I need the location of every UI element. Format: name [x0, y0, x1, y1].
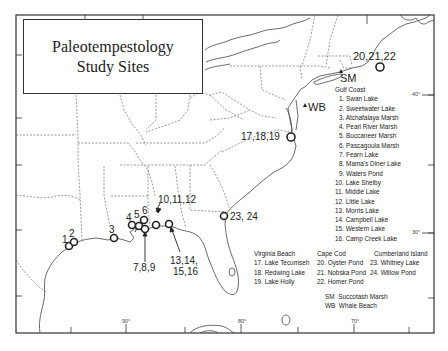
lon-90-label: 90°	[122, 318, 130, 324]
title-box: Paleotempestology Study Sites	[23, 19, 203, 94]
site-marker-10-11-12	[153, 222, 160, 229]
site-label-5: 5	[134, 209, 140, 221]
legend-cumberland-island: Cumberland Island 23. Whitney Lake 24. W…	[370, 249, 428, 277]
legend-item: 8. Mama's Diner Lake	[339, 159, 401, 168]
legend-item: 17. Lake Tecumseh	[254, 258, 309, 267]
wb-label: WB	[308, 101, 326, 113]
legend-item: 19. Lake Holly	[254, 277, 309, 286]
legend-abbreviations: SM Succotash Marsh WB Whale Beach	[325, 292, 388, 311]
site-label-20-21-22: 20,21,22	[353, 50, 396, 62]
legend-gulf-coast: Gulf Coast 1. Swan Lake 2. Sweetwater La…	[335, 85, 401, 243]
legend-abbrev-wb: WB Whale Beach	[325, 301, 388, 310]
title-line-2: Study Sites	[77, 57, 149, 77]
legend-item: 11. Middle Lake	[335, 187, 401, 196]
site-label-2: 2	[69, 228, 75, 240]
legend-item: 12. Little Lake	[335, 197, 401, 206]
wb-triangle-icon	[303, 103, 307, 107]
site-label-7-8-9: 7,8,9	[133, 262, 155, 274]
site-label-6: 6	[142, 205, 148, 217]
legend-item: 5. Buccaneer Marsh	[339, 131, 401, 140]
site-label-10-11-12: 10,11,12	[158, 194, 196, 206]
lat-ticks-labels	[422, 95, 434, 233]
legend-item: 23. Whitney Lake	[370, 258, 428, 267]
legend-item: 6. Pascagoula Marsh	[339, 141, 401, 150]
lon-80-label: 80°	[238, 318, 246, 324]
legend-item: 20. Oyster Pond	[317, 258, 366, 267]
legend-heading-cape-cod: Cape Cod	[317, 249, 366, 258]
legend-item: 22. Homer Pond	[317, 277, 366, 286]
site-label-3: 3	[109, 224, 115, 236]
legend-item: 24. Willow Pond	[370, 268, 428, 277]
legend-item: 21. Nobska Pond	[317, 268, 366, 277]
title-line-1: Paleotempestology	[52, 37, 174, 57]
legend-item: 7. Fearn Lake	[339, 150, 401, 159]
legend-abbrev-sm: SM Succotash Marsh	[325, 292, 388, 301]
legend-heading-virginia-beach: Virginia Beach	[254, 249, 309, 258]
site-label-4: 4	[126, 212, 132, 224]
legend-item: 18. Redwing Lake	[254, 268, 309, 277]
site-marker-13-16	[166, 221, 173, 228]
legend-heading-gulf-coast: Gulf Coast	[335, 85, 401, 94]
site-label-1: 1	[62, 234, 68, 246]
legend-item: 9. Waters Pond	[339, 169, 401, 178]
sm-label: SM	[340, 72, 357, 84]
legend-item: 4. Pearl River Marsh	[339, 122, 401, 131]
lat-40-label: 40°	[412, 91, 420, 97]
lon-70-label: 70°	[351, 318, 359, 324]
site-label-17-18-19: 17,18,19	[241, 131, 280, 143]
legend-item: 16. Camp Creek Lake	[335, 234, 401, 243]
legend-item: 13. Morris Lake	[335, 206, 401, 215]
legend-item: 1. Swan Lake	[339, 94, 401, 103]
legend-cape-cod: Cape Cod 20. Oyster Pond 21. Nobska Pond…	[317, 249, 366, 286]
site-label-15-16: 15,16	[173, 266, 198, 278]
legend-item: 3. Atchafalaya Marsh	[339, 113, 401, 122]
legend-virginia-beach: Virginia Beach 17. Lake Tecumseh 18. Red…	[254, 249, 309, 286]
legend-item: 15. Western Lake	[335, 224, 401, 233]
legend-item: 2. Sweetwater Lake	[339, 104, 401, 113]
site-marker-17-18-19	[287, 133, 295, 141]
lat-30-label: 30°	[412, 229, 420, 235]
site-marker-6	[141, 217, 148, 224]
legend-item: 14. Campbell Lake	[335, 215, 401, 224]
site-marker-23-24	[221, 213, 228, 220]
legend-item: 10. Lake Shelby	[335, 178, 401, 187]
legend-heading-cumberland-island: Cumberland Island	[370, 249, 428, 258]
site-marker-20-21-22	[376, 63, 384, 71]
site-label-23-24: 23, 24	[230, 211, 258, 223]
